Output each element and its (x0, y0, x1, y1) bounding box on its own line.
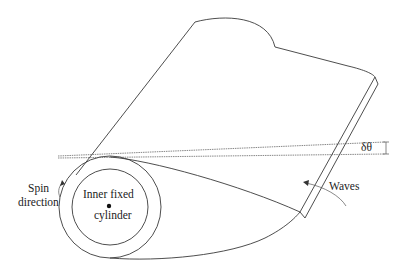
film-edge-cap (300, 212, 305, 218)
spin-label-line2: direction (18, 196, 59, 208)
waves-arrowhead-icon (303, 180, 309, 186)
angle-label: δθ (361, 141, 372, 153)
inner-cylinder-label-line1: Inner fixed (83, 188, 134, 200)
diagram-canvas: δθ Spin direction Inner fixed cylinder W… (0, 0, 395, 274)
spin-label-line1: Spin (28, 182, 49, 195)
angle-line-upper (58, 142, 385, 156)
film-bottom-curve (110, 212, 300, 259)
waves-label: Waves (329, 180, 360, 192)
cylinder-center-dot (107, 204, 111, 208)
inner-cylinder-label-line2: cylinder (94, 209, 132, 222)
